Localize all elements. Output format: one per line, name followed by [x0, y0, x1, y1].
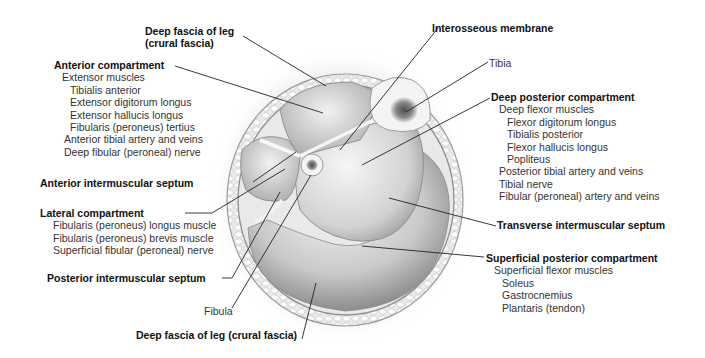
anterior-item: Fibularis (peroneus) tertius [54, 121, 203, 133]
anterior-item: Tibialis anterior [54, 84, 203, 96]
label-deep-fascia-top: Deep fascia of leg (crural fascia) [145, 25, 234, 50]
superficial-posterior-item: Gastrocnemius [486, 289, 658, 301]
deep-posterior-item: Flexor digitorum longus [491, 116, 660, 128]
superficial-posterior-item: Superficial flexor muscles [486, 264, 658, 276]
lateral-compartment-title: Lateral compartment [40, 207, 216, 219]
fibula-marrow [306, 159, 318, 171]
label-fibula: Fibula [204, 305, 233, 317]
tibia-marrow [390, 97, 418, 123]
deep-posterior-title: Deep posterior compartment [491, 91, 660, 103]
label-deep-fascia-line1: Deep fascia of leg [145, 25, 234, 37]
lateral-item: Fibularis (peroneus) brevis muscle [40, 232, 216, 244]
label-lateral-compartment: Lateral compartment Fibularis (peroneus)… [40, 207, 216, 257]
label-deep-fascia-bottom: Deep fascia of leg (crural fascia) [136, 329, 297, 341]
lateral-item: Fibularis (peroneus) longus muscle [40, 219, 216, 231]
lateral-item: Superficial fibular (peroneal) nerve [40, 244, 216, 256]
anterior-item: Deep fibular (peroneal) nerve [54, 146, 203, 158]
leg-cross-section-figure: Deep fascia of leg (crural fascia) Anter… [0, 0, 705, 358]
label-deep-fascia-line2: (crural fascia) [145, 37, 234, 49]
label-interosseous-membrane: Interosseous membrane [432, 22, 553, 34]
deep-posterior-item: Flexor hallucis longus [491, 141, 660, 153]
label-posterior-intermuscular-septum: Posterior intermuscular septum [47, 272, 206, 284]
label-deep-posterior-compartment: Deep posterior compartment Deep flexor m… [491, 91, 660, 203]
superficial-posterior-title: Superficial posterior compartment [486, 252, 658, 264]
label-anterior-intermuscular-septum: Anterior intermuscular septum [40, 177, 193, 189]
anterior-item: Extensor digitorum longus [54, 96, 203, 108]
superficial-posterior-item: Plantaris (tendon) [486, 302, 658, 314]
label-superficial-posterior-compartment: Superficial posterior compartment Superf… [486, 252, 658, 314]
label-transverse-intermuscular-septum: Transverse intermuscular septum [497, 219, 665, 231]
anterior-item: Extensor hallucis longus [54, 109, 203, 121]
anterior-item: Extensor muscles [54, 71, 203, 83]
anterior-compartment-title: Anterior compartment [54, 59, 203, 71]
deep-posterior-item: Popliteus [491, 153, 660, 165]
label-anterior-compartment: Anterior compartment Extensor muscles Ti… [54, 59, 203, 158]
anterior-item: Anterior tibial artery and veins [54, 133, 203, 145]
deep-posterior-item: Tibial nerve [491, 178, 660, 190]
lateral-compartment [241, 137, 300, 202]
deep-posterior-item: Posterior tibial artery and veins [491, 165, 660, 177]
deep-posterior-item: Tibialis posterior [491, 128, 660, 140]
deep-posterior-item: Fibular (peroneal) artery and veins [491, 190, 660, 202]
label-tibia: Tibia [489, 57, 511, 69]
superficial-posterior-item: Soleus [486, 277, 658, 289]
deep-posterior-item: Deep flexor muscles [491, 103, 660, 115]
